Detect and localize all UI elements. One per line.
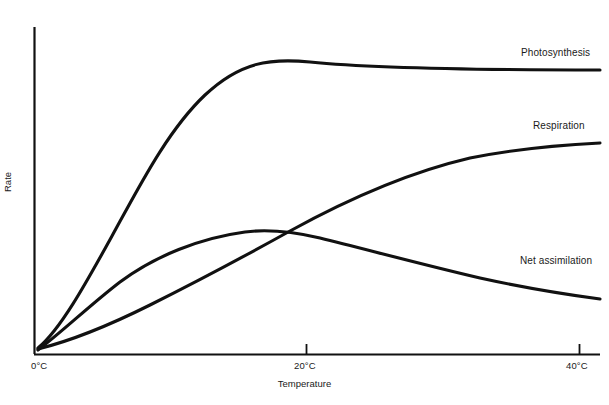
curve-net-assimilation — [38, 231, 600, 350]
chart-plot-area — [0, 0, 609, 405]
chart-container: 0°C 20°C 40°C Rate Temperature Photosynt… — [0, 0, 609, 405]
curve-label-respiration: Respiration — [533, 120, 585, 131]
curve-label-net-assimilation: Net assimilation — [520, 255, 592, 266]
x-tick-label-40: 40°C — [566, 360, 588, 371]
curve-photosynthesis — [38, 61, 600, 348]
curve-respiration — [38, 143, 600, 349]
y-axis-title: Rate — [2, 152, 13, 192]
curve-label-photosynthesis: Photosynthesis — [521, 47, 590, 58]
x-axis-title: Temperature — [0, 378, 609, 389]
x-tick-label-0: 0°C — [31, 360, 47, 371]
x-tick-label-20: 20°C — [294, 360, 316, 371]
